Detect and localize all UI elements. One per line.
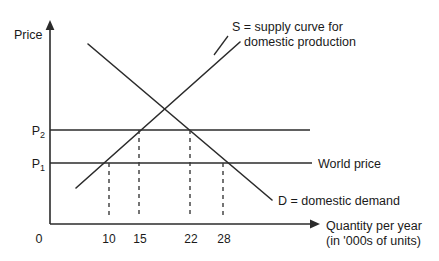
x-axis-label-line1: Quantity per year xyxy=(326,219,422,233)
diagram-canvas: Price 0 Quantity per year (in '000s of u… xyxy=(0,0,439,261)
supply-label-leader-line xyxy=(214,36,228,55)
curves-group xyxy=(76,42,272,200)
supply-curve xyxy=(76,42,240,188)
x-axis-arrowhead xyxy=(310,220,320,229)
price-tick-p2: P 2 xyxy=(32,124,45,140)
world-price-label: World price xyxy=(318,157,381,171)
y-axis-arrowhead xyxy=(46,20,55,30)
price-tick-p1: P 1 xyxy=(32,157,45,173)
y-axis-label: Price xyxy=(14,28,43,42)
supply-curve-label-line1: S = supply curve for xyxy=(232,20,343,34)
price-tick-p2-base: P xyxy=(32,124,40,138)
supply-demand-figure: Price 0 Quantity per year (in '000s of u… xyxy=(0,0,439,261)
x-tick-label-28: 28 xyxy=(217,232,231,246)
x-tick-label-15: 15 xyxy=(133,232,147,246)
x-tick-label-22: 22 xyxy=(184,232,198,246)
price-tick-p2-subscript: 2 xyxy=(40,130,45,140)
price-lines-group xyxy=(50,130,312,163)
origin-label: 0 xyxy=(36,232,43,246)
x-axis-label-line2: (in '000s of units) xyxy=(326,234,421,248)
price-tick-p1-subscript: 1 xyxy=(40,163,45,173)
supply-label-leader-group xyxy=(214,36,228,55)
price-tick-p1-base: P xyxy=(32,157,40,171)
demand-curve-label: D = domestic demand xyxy=(278,194,400,208)
supply-curve-label-line2: domestic production xyxy=(244,35,356,49)
x-tick-label-10: 10 xyxy=(102,232,116,246)
demand-curve xyxy=(88,44,272,200)
